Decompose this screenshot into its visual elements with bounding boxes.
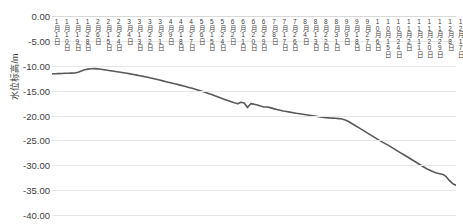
gridline (52, 91, 456, 92)
y-axis-tick-label: -5.00 (6, 35, 50, 46)
x-axis-tick-label: 10月15日 (384, 18, 390, 57)
x-axis-tick-label: 3月13日 (136, 18, 142, 51)
x-axis-tick-label: 6月20日 (250, 18, 256, 51)
x-axis-tick-label: 2月24日 (115, 18, 121, 51)
y-axis-tick-label: -30.00 (6, 160, 50, 171)
x-axis-tick-label: 11月29日 (436, 18, 442, 57)
x-axis-tick-label: 2月15日 (105, 18, 111, 51)
y-axis-tick-label: 0.00 (6, 11, 50, 22)
x-axis-tick-label: 9月27日 (364, 18, 370, 51)
x-axis-tick-label: 7月8日 (271, 18, 277, 44)
gridline (52, 140, 456, 141)
x-axis-tick-label: 12月17日 (457, 18, 463, 57)
y-axis-tick-label: -25.00 (6, 135, 50, 146)
y-axis-tick-label: -10.00 (6, 60, 50, 71)
x-axis-tick-label: 6月29日 (260, 18, 266, 51)
gridline (52, 190, 456, 191)
x-axis-tick-label: 7月17日 (281, 18, 287, 51)
x-axis-tick-label: 9月18日 (353, 18, 359, 51)
x-axis-tick-label: 2月6日 (94, 18, 100, 44)
x-axis-tick-label: 4月27日 (188, 18, 194, 51)
x-axis: 1月1日1月10日1月19日1月28日2月6日2月15日2月24日3月4日3月1… (52, 18, 456, 78)
x-axis-tick-label: 11月11日 (416, 18, 422, 57)
y-axis-tick-label: -40.00 (6, 210, 50, 221)
x-axis-tick-label: 12月8日 (447, 18, 453, 51)
x-axis-tick-label: 7月26日 (291, 18, 297, 51)
water-level-line-chart: 水位标高/m 0.00-5.00-10.00-15.00-20.00-25.00… (0, 0, 463, 224)
gridline (52, 116, 456, 117)
x-axis-tick-label: 1月28日 (84, 18, 90, 51)
x-axis-tick-label: 9月9日 (343, 18, 349, 44)
x-axis-tick-label: 5月15日 (208, 18, 214, 51)
series-line (52, 69, 456, 186)
y-axis-tick-label: -35.00 (6, 185, 50, 196)
x-axis-tick-label: 8月4日 (302, 18, 308, 44)
y-axis-tick-label: -15.00 (6, 85, 50, 96)
x-axis-tick-label: 6月11日 (239, 18, 245, 51)
x-axis-tick-label: 8月22日 (322, 18, 328, 51)
y-axis: 0.00-5.00-10.00-15.00-20.00-25.00-30.00-… (0, 0, 50, 224)
x-axis-tick-label: 4月9日 (167, 18, 173, 44)
gridline (52, 215, 456, 216)
x-axis-tick-label: 11月20日 (426, 18, 432, 57)
x-axis-tick-label: 5月24日 (219, 18, 225, 51)
x-axis-tick-label: 6月2日 (229, 18, 235, 44)
x-axis-tick-label: 1月10日 (63, 18, 69, 51)
x-axis-tick-label: 8月13日 (312, 18, 318, 51)
x-axis-tick-label: 4月18日 (177, 18, 183, 51)
x-axis-tick-label: 3月31日 (157, 18, 163, 51)
x-axis-tick-label: 11月2日 (405, 18, 411, 51)
gridline (52, 165, 456, 166)
x-axis-tick-label: 3月4日 (126, 18, 132, 44)
x-axis-tick-label: 1月19日 (74, 18, 80, 51)
x-axis-tick-label: 10月24日 (395, 18, 401, 57)
gridline (52, 16, 456, 17)
x-axis-tick-label: 8月31日 (333, 18, 339, 51)
y-axis-tick-label: -20.00 (6, 110, 50, 121)
x-axis-tick-label: 3月22日 (146, 18, 152, 51)
x-axis-tick-label: 5月6日 (198, 18, 204, 44)
x-axis-tick-label: 10月6日 (374, 18, 380, 51)
x-axis-tick-label: 1月1日 (53, 18, 59, 44)
